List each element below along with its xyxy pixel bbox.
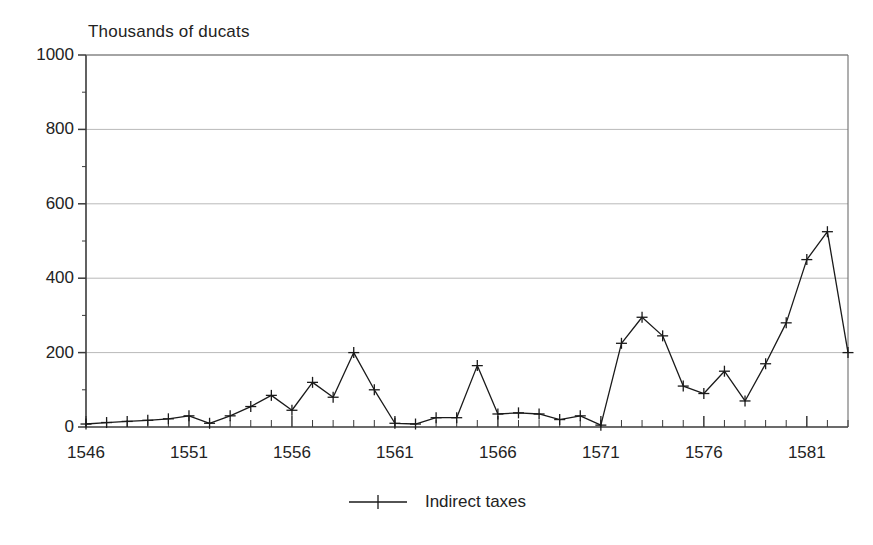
data-point-marker [369, 384, 380, 395]
y-axis-tick-label: 200 [14, 343, 74, 363]
data-point-marker [225, 410, 236, 421]
data-point-marker [740, 395, 751, 406]
data-point-marker [122, 416, 133, 427]
data-point-marker [843, 347, 854, 358]
data-point-marker [348, 347, 359, 358]
data-point-marker [431, 412, 442, 423]
x-axis-tick-label: 1551 [170, 443, 208, 463]
grid-lines [86, 55, 848, 353]
data-point-marker [801, 254, 812, 265]
axis-lines [86, 55, 848, 427]
data-point-marker [575, 410, 586, 421]
data-point-marker [266, 390, 277, 401]
data-point-marker [781, 317, 792, 328]
x-axis-tick-label: 1566 [479, 443, 517, 463]
y-axis-tick-label: 1000 [14, 45, 74, 65]
x-axis-tick-label: 1571 [582, 443, 620, 463]
x-axis-tick-label: 1556 [273, 443, 311, 463]
data-point-marker [142, 415, 153, 426]
legend-label-indirect-taxes: Indirect taxes [425, 492, 526, 512]
data-point-marker [822, 226, 833, 237]
data-point-marker [534, 408, 545, 419]
data-point-marker [328, 392, 339, 403]
y-axis-tick-label: 0 [14, 417, 74, 437]
y-axis-tick-labels: 02004006008001000 [12, 0, 74, 545]
data-point-marker [81, 419, 92, 430]
data-point-marker [307, 377, 318, 388]
x-axis-tick-label: 1576 [685, 443, 723, 463]
data-point-marker [451, 412, 462, 423]
data-markers [81, 226, 854, 430]
axis-ticks [78, 55, 848, 427]
x-axis-tick-label: 1546 [67, 443, 105, 463]
data-point-marker [513, 407, 524, 418]
data-point-marker [286, 405, 297, 416]
x-axis-tick-label: 1581 [788, 443, 826, 463]
series-line-indirect-taxes [86, 232, 848, 425]
plus-marker-icon [347, 493, 409, 511]
y-axis-tick-label: 800 [14, 119, 74, 139]
x-axis-tick-label: 1561 [376, 443, 414, 463]
y-axis-tick-label: 400 [14, 268, 74, 288]
data-point-marker [410, 419, 421, 430]
data-point-marker [183, 410, 194, 421]
data-point-marker [245, 401, 256, 412]
data-point-marker [492, 408, 503, 419]
data-point-marker [554, 414, 565, 425]
data-point-marker [472, 360, 483, 371]
plot-svg [0, 0, 873, 545]
data-point-marker [595, 420, 606, 431]
chart-container: Thousands of ducats 02004006008001000 15… [0, 0, 873, 545]
data-point-marker [163, 413, 174, 424]
chart-legend: Indirect taxes [0, 492, 873, 512]
data-line [86, 232, 848, 425]
data-point-marker [678, 381, 689, 392]
y-axis-tick-label: 600 [14, 194, 74, 214]
y-axis-title: Thousands of ducats [88, 22, 250, 42]
data-point-marker [760, 358, 771, 369]
